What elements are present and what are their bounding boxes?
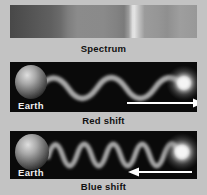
blue-shift-label: Blue shift xyxy=(10,181,197,192)
light-source-core xyxy=(176,146,189,159)
light-source-core xyxy=(178,77,190,89)
lightwave-red-shifted-core xyxy=(38,78,183,99)
lightwave-blue-shifted xyxy=(48,144,178,166)
doppler-shift-diagram: Spectrum xyxy=(0,0,207,195)
earth-label: Earth xyxy=(18,100,44,111)
earth-sphere xyxy=(15,65,47,99)
red-shift-panel: Earth xyxy=(10,62,197,112)
red-shift-label: Red shift xyxy=(10,115,197,126)
spectrum-label: Spectrum xyxy=(10,43,197,54)
earth-sphere xyxy=(15,134,49,170)
spectrum-band xyxy=(10,5,197,38)
earth-label: Earth xyxy=(18,167,44,178)
blue-shift-panel: Earth xyxy=(10,131,197,179)
